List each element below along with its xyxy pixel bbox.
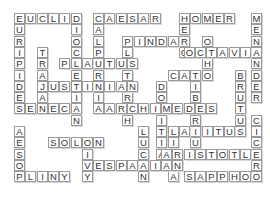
grid-cell: S bbox=[195, 149, 206, 160]
grid-cell: I bbox=[14, 70, 25, 81]
grid-cell: E bbox=[172, 103, 183, 114]
grid-cell: I bbox=[134, 36, 145, 47]
grid-cell: L bbox=[138, 126, 149, 137]
grid-cell: U bbox=[48, 81, 59, 92]
grid-cell: E bbox=[14, 13, 25, 24]
grid-cell: U bbox=[224, 126, 235, 137]
grid-cell: A bbox=[138, 160, 149, 171]
grid-cell: R bbox=[179, 36, 190, 47]
grid-cell: B bbox=[190, 92, 201, 103]
grid-cell: E bbox=[25, 103, 36, 114]
grid-cell: U bbox=[235, 115, 246, 126]
grid-cell: U bbox=[138, 137, 149, 148]
grid-cell: A bbox=[168, 171, 179, 182]
grid-cell: N bbox=[251, 58, 262, 69]
grid-cell: I bbox=[37, 171, 48, 182]
grid-cell: A bbox=[161, 160, 172, 171]
grid-cell: O bbox=[14, 160, 25, 171]
grid-cell: I bbox=[251, 126, 262, 137]
grid-cell: N bbox=[145, 36, 156, 47]
grid-cell: R bbox=[224, 13, 235, 24]
grid-cell: A bbox=[14, 126, 25, 137]
grid-cell: I bbox=[93, 92, 104, 103]
grid-cell: N bbox=[71, 115, 82, 126]
grid-cell: N bbox=[37, 103, 48, 114]
grid-cell: N bbox=[172, 160, 183, 171]
grid-cell: O bbox=[240, 171, 251, 182]
grid-cell: P bbox=[217, 171, 228, 182]
grid-cell: A bbox=[104, 13, 115, 24]
grid-cell: L bbox=[48, 13, 59, 24]
grid-cell: L bbox=[25, 171, 36, 182]
grid-cell: A bbox=[217, 47, 228, 58]
grid-cell: A bbox=[251, 47, 262, 58]
grid-cell: S bbox=[127, 58, 138, 69]
grid-cell: I bbox=[184, 149, 195, 160]
grid-cell: A bbox=[93, 103, 104, 114]
grid-cell: D bbox=[14, 81, 25, 92]
grid-cell: O bbox=[184, 47, 195, 58]
grid-cell: E bbox=[116, 13, 127, 24]
grid-cell: S bbox=[59, 81, 70, 92]
grid-cell: E bbox=[251, 149, 262, 160]
grid-cell: C bbox=[93, 13, 104, 24]
grid-cell: A bbox=[93, 24, 104, 35]
grid-cell: T bbox=[71, 81, 82, 92]
grid-cell: P bbox=[116, 160, 127, 171]
grid-cell: L bbox=[168, 126, 179, 137]
grid-cell: E bbox=[14, 92, 25, 103]
grid-cell: N bbox=[251, 36, 262, 47]
grid-cell: R bbox=[251, 160, 262, 171]
grid-cell: H bbox=[122, 115, 133, 126]
grid-cell: V bbox=[229, 47, 240, 58]
grid-cell: C bbox=[59, 103, 70, 114]
grid-cell: J bbox=[37, 81, 48, 92]
grid-cell: I bbox=[150, 103, 161, 114]
grid-cell: R bbox=[37, 58, 48, 69]
grid-cell: O bbox=[82, 137, 93, 148]
grid-cell: A bbox=[168, 36, 179, 47]
grid-cell: D bbox=[251, 70, 262, 81]
grid-cell: L bbox=[240, 149, 251, 160]
grid-cell: T bbox=[156, 126, 167, 137]
grid-cell: U bbox=[93, 58, 104, 69]
grid-cell: U bbox=[116, 58, 127, 69]
grid-cell: E bbox=[195, 103, 206, 114]
grid-cell: A bbox=[127, 160, 138, 171]
grid-cell: C bbox=[127, 103, 138, 114]
grid-cell: N bbox=[48, 171, 59, 182]
grid-cell: R bbox=[116, 103, 127, 114]
grid-cell: D bbox=[156, 81, 167, 92]
grid-cell: C bbox=[168, 70, 179, 81]
grid-cell: E bbox=[179, 24, 190, 35]
grid-cell: I bbox=[71, 92, 82, 103]
grid-cell: I bbox=[202, 126, 213, 137]
grid-cell: I bbox=[168, 137, 179, 148]
grid-cell: T bbox=[206, 47, 217, 58]
grid-cell: I bbox=[156, 137, 167, 148]
grid-cell: I bbox=[104, 81, 115, 92]
grid-cell: R bbox=[14, 36, 25, 47]
grid-cell: H bbox=[202, 58, 213, 69]
grid-cell: M bbox=[251, 13, 262, 24]
grid-cell: I bbox=[240, 47, 251, 58]
grid-cell: R bbox=[251, 92, 262, 103]
grid-cell: E bbox=[71, 70, 82, 81]
grid-cell: I bbox=[14, 47, 25, 58]
grid-cell: O bbox=[59, 137, 70, 148]
grid-cell: P bbox=[59, 58, 70, 69]
grid-cell: N bbox=[127, 81, 138, 92]
crossword-grid: EUCLIDCAESARHOMERMENANDERURIPIDESIOCLETI… bbox=[0, 0, 270, 211]
grid-cell: I bbox=[71, 24, 82, 35]
grid-cell: T bbox=[229, 149, 240, 160]
grid-cell: C bbox=[195, 47, 206, 58]
grid-cell: I bbox=[59, 13, 70, 24]
grid-cell: R bbox=[122, 92, 133, 103]
grid-cell: N bbox=[93, 137, 104, 148]
grid-cell: B bbox=[235, 70, 246, 81]
grid-cell: I bbox=[82, 149, 93, 160]
grid-cell: S bbox=[184, 171, 195, 182]
grid-cell: T bbox=[104, 58, 115, 69]
grid-cell: I bbox=[150, 160, 161, 171]
grid-cell: A bbox=[138, 13, 149, 24]
